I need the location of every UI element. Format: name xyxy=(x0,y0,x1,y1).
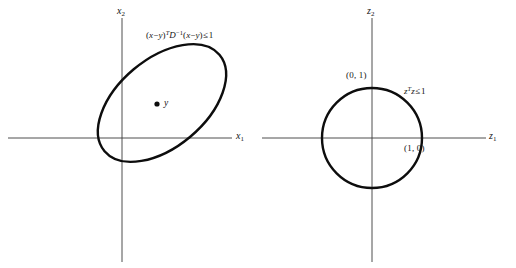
figure-container: x2 x1 (x−y)TD−1(x−y)≤1 y z2 z1 (0, 1) (1… xyxy=(0,0,516,268)
center-point-label: y xyxy=(164,99,168,109)
left-formula-label: (x−y)TD−1(x−y)≤1 xyxy=(146,30,213,40)
right-formula-label: zTz≤1 xyxy=(404,86,426,96)
right-panel-circle: z2 z1 (0, 1) (1, 0) zTz≤1 xyxy=(258,0,516,268)
right-y-axis-label: z2 xyxy=(367,6,375,18)
coord-label-right: (1, 0) xyxy=(404,144,425,153)
left-panel-ellipse: x2 x1 (x−y)TD−1(x−y)≤1 y xyxy=(0,0,258,268)
right-panel-graphics xyxy=(258,0,516,268)
left-y-axis-label: x2 xyxy=(117,6,125,18)
left-x-axis-label: x1 xyxy=(236,131,244,143)
ellipse-curve xyxy=(76,21,247,185)
left-panel-graphics xyxy=(0,0,258,268)
right-x-axis-label: z1 xyxy=(489,131,497,143)
coord-label-top: (0, 1) xyxy=(346,71,367,80)
center-point-marker xyxy=(154,101,159,106)
